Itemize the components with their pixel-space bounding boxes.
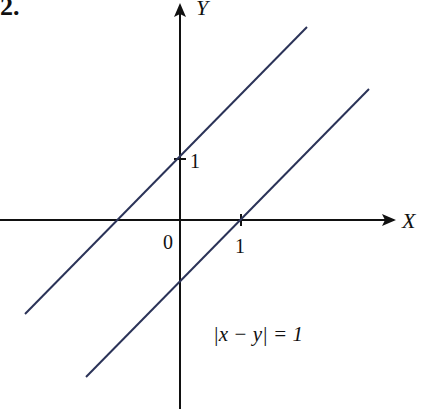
plot-area bbox=[0, 0, 423, 409]
x-axis-label: X bbox=[402, 210, 415, 232]
equation-annotation: |x − y| = 1 bbox=[213, 324, 303, 345]
x-tick-label: 1 bbox=[235, 236, 245, 256]
origin-label: 0 bbox=[163, 232, 173, 252]
y-tick-label: 1 bbox=[190, 151, 200, 171]
line-y-equals-x-plus-1 bbox=[25, 27, 307, 314]
y-axis-label: Y bbox=[196, 0, 208, 19]
